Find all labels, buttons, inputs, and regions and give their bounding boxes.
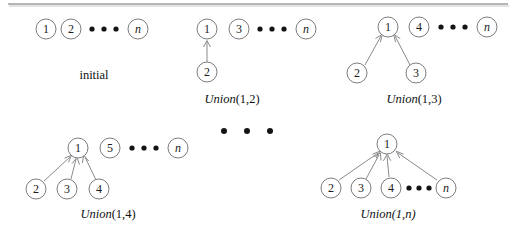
node-label: 4 (416, 20, 422, 34)
edge-3-to-1 (394, 34, 411, 65)
node-label: 5 (107, 141, 113, 155)
caption-word: Union (80, 207, 111, 221)
group-union-1-2: 1 3 n 2 Union(1,2) (197, 19, 316, 106)
node-label: n (135, 22, 141, 36)
group-union-1-n: 1 2 3 4 n Uni (321, 134, 456, 221)
node-3: 3 (57, 179, 77, 199)
node-label: 3 (358, 181, 364, 195)
edge-4-to-1 (82, 155, 96, 180)
node-4: 4 (381, 178, 401, 198)
node-3: 3 (351, 178, 371, 198)
node-label: 2 (354, 66, 360, 80)
node-n: n (168, 138, 188, 158)
node-label: 1 (384, 137, 390, 151)
node-n: n (436, 178, 456, 198)
node-n: n (296, 19, 316, 39)
node-label: 1 (204, 22, 210, 36)
node-2: 2 (347, 63, 367, 83)
node-2: 2 (26, 179, 46, 199)
edge-3-to-1 (71, 157, 80, 179)
caption-args: (1,4) (112, 207, 136, 221)
caption-union-1-n: Union(1,n) (360, 207, 415, 221)
edge-n-to-1 (396, 151, 437, 180)
node-label: 3 (64, 182, 70, 196)
top-rule (8, 4, 509, 6)
ellipsis-dots (129, 145, 158, 150)
caption-initial: initial (79, 68, 109, 82)
node-label: 2 (204, 65, 210, 79)
caption-word: Union (204, 92, 235, 106)
ellipsis-dots (406, 185, 431, 190)
edge-2-to-1 (365, 34, 383, 65)
node-1: 1 (197, 19, 217, 39)
node-2: 2 (321, 178, 341, 198)
ellipsis-dots (89, 26, 118, 31)
edge-2-to-1 (44, 155, 72, 181)
node-label: 2 (68, 22, 74, 36)
ellipsis-dots (257, 26, 286, 31)
node-label: 2 (33, 182, 39, 196)
node-label: 4 (388, 181, 394, 195)
group-union-1-4: 1 5 n 2 3 (26, 138, 188, 221)
edge-3-to-1 (366, 153, 381, 179)
node-1: 1 (377, 134, 397, 154)
node-label: 3 (236, 22, 242, 36)
ellipsis-dots (438, 24, 467, 29)
separator-dots (221, 128, 273, 134)
caption-args: (1,2) (236, 92, 260, 106)
caption-args: (1,3) (418, 92, 442, 106)
node-1: 1 (68, 138, 88, 158)
node-5: 5 (100, 138, 120, 158)
caption-union-1-4: Union(1,4) (80, 207, 135, 221)
group-union-1-3: 1 4 n 2 3 Uni (347, 17, 497, 106)
node-3: 3 (229, 19, 249, 39)
edge-4-to-1 (383, 154, 390, 177)
node-3: 3 (406, 63, 426, 83)
node-label: 2 (328, 181, 334, 195)
node-label: 1 (75, 141, 81, 155)
group-initial: 1 2 n initial (36, 19, 148, 82)
node-label: 1 (385, 20, 391, 34)
node-n: n (128, 19, 148, 39)
node-4: 4 (409, 17, 429, 37)
figure-root: 1 2 n initial (0, 0, 514, 242)
node-1: 1 (36, 19, 56, 39)
union-find-figure: 1 2 n initial (0, 0, 514, 242)
node-1: 1 (378, 17, 398, 37)
caption-word: Union (386, 92, 417, 106)
node-label: n (175, 141, 181, 155)
node-4: 4 (89, 179, 109, 199)
node-label: 3 (413, 66, 419, 80)
node-label: 1 (43, 22, 49, 36)
caption-union-1-3: Union(1,3) (386, 92, 441, 106)
node-label: n (303, 22, 309, 36)
node-n: n (477, 17, 497, 37)
node-label: n (484, 20, 490, 34)
caption-args: (1,n) (392, 207, 416, 221)
node-2: 2 (197, 62, 217, 82)
edge-2-to-1 (204, 41, 211, 63)
caption-union-1-2: Union(1,2) (204, 92, 259, 106)
node-label: n (443, 181, 449, 195)
node-label: 4 (96, 182, 102, 196)
caption-word: Union (360, 207, 391, 221)
node-2: 2 (61, 19, 81, 39)
